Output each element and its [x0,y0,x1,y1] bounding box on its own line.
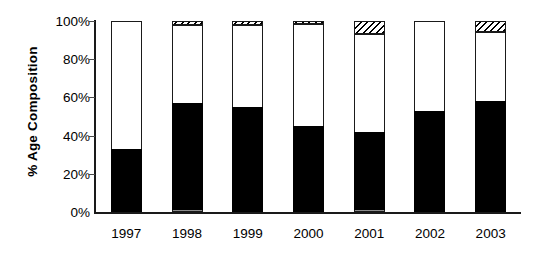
bar-segment-black-segment [293,126,324,212]
bar-segment-gray-segment [354,210,385,212]
x-tick-label: 1998 [172,226,202,241]
bar-segment-white-segment [293,24,324,126]
bar-group [293,21,324,212]
bar-group [172,21,203,212]
bar-segment-black-segment [172,103,203,210]
bar-group [232,21,263,212]
y-tick-label: 80% [34,52,90,67]
bar-segment-black-segment [354,132,385,210]
x-tick-label: 1997 [111,226,141,241]
bar-segment-gray-segment [172,210,203,212]
bar-stack [475,21,506,212]
bar-segment-white-segment [475,32,506,101]
x-tick-label: 1999 [233,226,263,241]
bar-segment-white-segment [172,25,203,103]
x-axis-tick-labels: 1997199819992000200120022003 [96,226,521,250]
y-tick-label: 20% [34,166,90,181]
bar-segment-black-segment [232,107,263,212]
x-tick-label: 2001 [354,226,384,241]
x-tick-label: 2003 [476,226,506,241]
y-tick-mark [89,97,95,98]
bar-segment-black-segment [475,101,506,212]
bar-segment-black-segment [414,111,445,212]
bar-stack [293,21,324,212]
bar-segment-hatched-segment [232,21,263,25]
y-tick-label: 0% [34,205,90,220]
x-tick-label: 2002 [415,226,445,241]
bar-stack [414,21,445,212]
y-tick-label: 100% [34,14,90,29]
y-tick-mark [89,59,95,60]
y-tick-mark [89,21,95,22]
bar-group [354,21,385,212]
bar-group [111,21,142,212]
y-axis-tick-labels: 0%20%40%60%80%100% [34,0,90,261]
x-axis-line [94,212,521,214]
bars-layer [96,21,521,212]
y-tick-label: 60% [34,90,90,105]
bar-group [475,21,506,212]
bar-segment-white-segment [232,25,263,107]
bar-stack [232,21,263,212]
stacked-bar-chart: % Age Composition 0%20%40%60%80%100% 199… [0,0,541,261]
bar-segment-black-segment [111,149,142,212]
y-tick-mark [89,136,95,137]
bar-segment-hatched-segment [475,21,506,32]
bar-segment-white-segment [354,34,385,131]
bar-segment-hatched-segment [354,21,385,34]
bar-group [414,21,445,212]
bar-stack [354,21,385,212]
bar-segment-white-segment [111,21,142,149]
bar-segment-white-segment [414,21,445,111]
x-tick-label: 2000 [293,226,323,241]
bar-segment-hatched-segment [172,21,203,25]
bar-stack [172,21,203,212]
bar-segment-hatched-segment [293,21,324,24]
bar-stack [111,21,142,212]
y-tick-mark [89,174,95,175]
y-tick-label: 40% [34,128,90,143]
plot-area [96,21,521,212]
